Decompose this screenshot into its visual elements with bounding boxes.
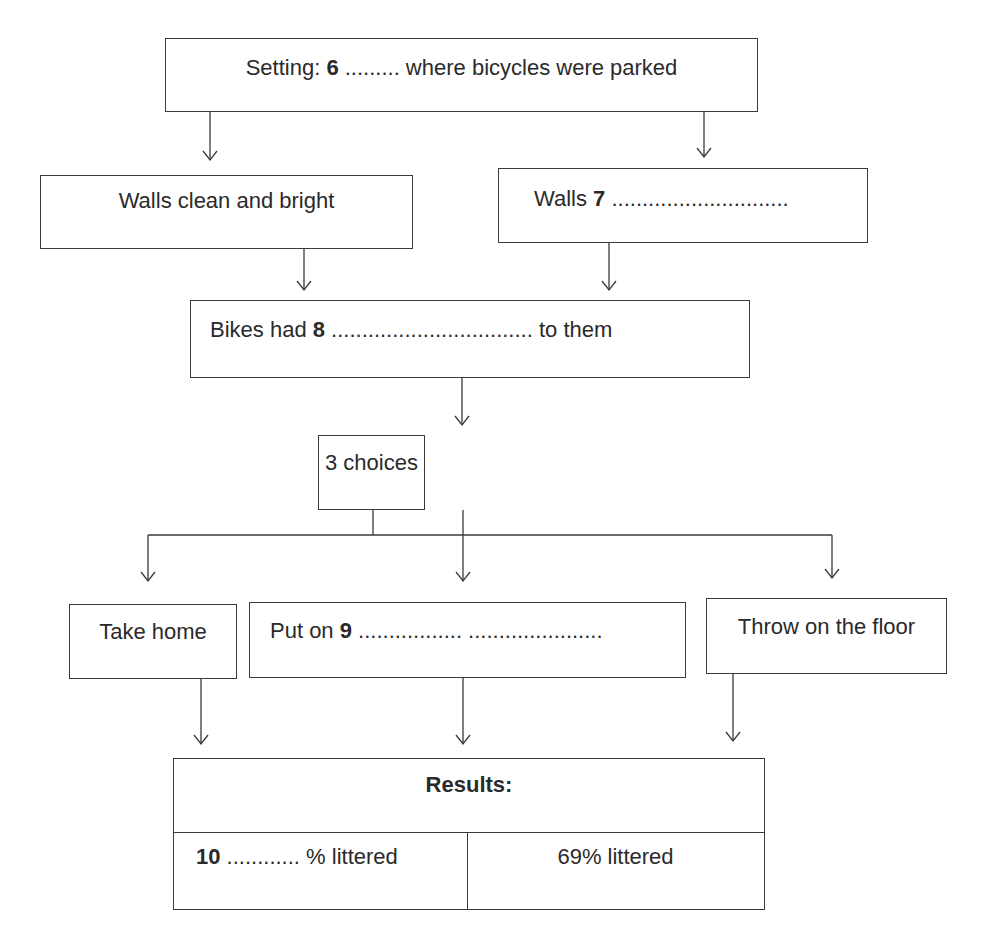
option-put-on-text: Put on 9 ................. .............…: [270, 618, 603, 644]
results-left-suffix: % littered: [300, 844, 398, 869]
setting-blank: .........: [339, 55, 400, 80]
bikes-text: Bikes had 8 ............................…: [210, 317, 612, 343]
question-number-10: 10: [196, 844, 220, 869]
walls-other-text: Walls 7 .............................: [534, 186, 789, 212]
setting-text: Setting: 6 ......... where bicycles were…: [166, 55, 757, 81]
bikes-blank: .................................: [325, 317, 533, 342]
results-right-cell: 69% littered: [467, 844, 764, 870]
results-divider-horizontal: [174, 832, 764, 833]
bikes-prefix: Bikes had: [210, 317, 313, 342]
question-number-6: 6: [326, 55, 338, 80]
option-throw-floor-box: Throw on the floor: [706, 598, 947, 674]
results-left-cell: 10 ............ % littered: [196, 844, 398, 870]
question-number-7: 7: [593, 186, 605, 211]
bikes-box: Bikes had 8 ............................…: [190, 300, 750, 378]
question-number-8: 8: [313, 317, 325, 342]
choices-label: 3 choices: [319, 450, 424, 476]
setting-suffix: where bicycles were parked: [400, 55, 678, 80]
walls-other-blank: .............................: [605, 186, 788, 211]
results-left-blank: ............: [220, 844, 299, 869]
choices-box: 3 choices: [318, 435, 425, 510]
setting-prefix: Setting:: [246, 55, 327, 80]
results-table: Results: 10 ............ % littered 69% …: [173, 758, 765, 910]
option-put-on-box: Put on 9 ................. .............…: [249, 602, 686, 678]
option-take-home-box: Take home: [69, 604, 237, 679]
setting-box: Setting: 6 ......... where bicycles were…: [165, 38, 758, 112]
option-take-home-label: Take home: [70, 619, 236, 645]
put-on-prefix: Put on: [270, 618, 340, 643]
walls-clean-label: Walls clean and bright: [41, 188, 412, 214]
put-on-blank: ................. ......................: [352, 618, 603, 643]
question-number-9: 9: [340, 618, 352, 643]
walls-other-box: Walls 7 .............................: [498, 168, 868, 243]
option-throw-floor-label: Throw on the floor: [707, 614, 946, 640]
walls-other-prefix: Walls: [534, 186, 593, 211]
walls-clean-box: Walls clean and bright: [40, 175, 413, 249]
results-title: Results:: [174, 772, 764, 798]
bikes-suffix: to them: [533, 317, 612, 342]
